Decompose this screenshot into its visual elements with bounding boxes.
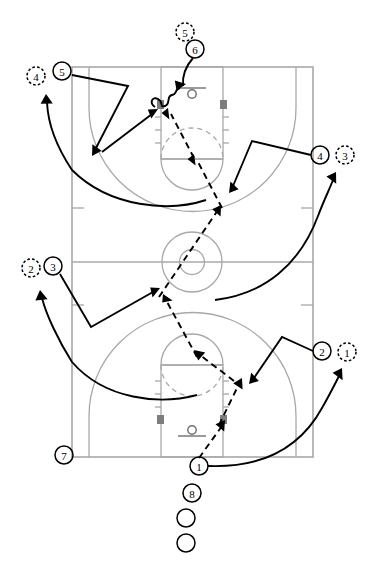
pass-arrowhead-2 xyxy=(233,378,242,390)
player3-cut-path xyxy=(60,274,153,327)
dribble-arrowhead xyxy=(175,80,186,90)
pass-arrowhead-4 xyxy=(162,294,172,302)
marker-4-dashed[interactable]: 4 xyxy=(27,67,45,85)
player2-cut-path xyxy=(254,337,313,378)
player3-fill-arc xyxy=(215,180,333,300)
marker-1-dashed-label: 1 xyxy=(344,347,350,359)
marker-4-dashed-label: 4 xyxy=(33,71,39,83)
bottom-lane-block-left xyxy=(157,415,164,424)
marker-5-dashed[interactable]: 5 xyxy=(176,23,194,41)
marker-3-solid[interactable]: 3 xyxy=(44,257,62,275)
marker-queue-1[interactable] xyxy=(177,509,195,527)
marker-3-dashed-label: 3 xyxy=(342,150,348,162)
pass-arrowhead-5 xyxy=(212,205,221,216)
marker-1-dashed[interactable]: 1 xyxy=(338,343,356,361)
marker-7-solid[interactable]: 7 xyxy=(55,446,73,464)
marker-1-solid[interactable]: 1 xyxy=(190,457,208,475)
dribble-continuation-to-6 xyxy=(183,58,193,86)
pass-arrow-1-to-block xyxy=(199,426,222,458)
player4-screen-path xyxy=(233,141,311,186)
marker-3-solid-label: 3 xyxy=(50,261,56,273)
marker-8-solid[interactable]: 8 xyxy=(183,484,201,502)
pass-arrow-center-to-midwing xyxy=(159,210,218,297)
marker-queue-2[interactable] xyxy=(177,534,195,552)
top-hoop xyxy=(188,90,196,98)
pass-arrow-topft-to-block xyxy=(171,114,194,158)
top-lane-block-right xyxy=(220,100,227,109)
marker-2-solid[interactable]: 2 xyxy=(313,342,331,360)
marker-1-solid-label: 1 xyxy=(196,461,202,473)
player4-fill-arrowhead xyxy=(41,94,53,104)
cut-left-to-topblock xyxy=(102,114,152,152)
marker-5-solid[interactable]: 5 xyxy=(53,62,71,80)
pass-arrow-elbow-to-ft xyxy=(200,355,234,381)
player1-fill-arc xyxy=(208,376,339,466)
pass-chain-group xyxy=(159,108,243,458)
bottom-free-throw-circle-solid xyxy=(161,334,223,365)
player2-fill-arrowhead xyxy=(35,290,47,300)
marker-2-solid-label: 2 xyxy=(319,346,325,358)
bottom-free-throw-circle-dashed xyxy=(161,365,223,396)
marker-6-solid-label: 6 xyxy=(192,44,198,56)
player5-screen-path xyxy=(72,75,128,148)
dribble-zigzag-to-hoop xyxy=(152,88,180,107)
top-key-lane xyxy=(161,67,223,159)
bottom-half-court xyxy=(89,313,296,458)
marker-3-dashed[interactable]: 3 xyxy=(336,146,354,164)
marker-8-solid-label: 8 xyxy=(189,488,195,500)
marker-5-solid-label: 5 xyxy=(59,66,65,78)
marker-5-dashed-label: 5 xyxy=(182,27,188,39)
player3-action-group xyxy=(35,274,197,399)
pass-arrowhead-7 xyxy=(162,108,170,119)
pass-arrow-ft-to-center xyxy=(166,300,197,357)
marker-2-dashed[interactable]: 2 xyxy=(22,259,40,277)
marker-7-solid-label: 7 xyxy=(61,450,67,462)
bottom-key-lane xyxy=(161,365,223,457)
player5-action-group xyxy=(41,75,206,206)
basketball-court-svg: 5 6 4 5 4 3 xyxy=(0,0,377,569)
player4-fill-arc xyxy=(47,102,206,206)
marker-2-dashed-label: 2 xyxy=(28,263,34,275)
marker-4-solid-label: 4 xyxy=(317,150,323,162)
marker-6-solid[interactable]: 6 xyxy=(186,40,204,58)
pass-arrowhead-6 xyxy=(188,154,196,165)
top-free-throw-circle-solid xyxy=(161,159,223,190)
player4-action-group xyxy=(215,141,336,300)
bottom-hoop xyxy=(188,426,196,434)
play-diagram-canvas: 5 6 4 5 4 3 xyxy=(0,0,377,569)
dribble-group xyxy=(152,58,193,107)
player3-cut-arrowhead xyxy=(150,288,160,298)
